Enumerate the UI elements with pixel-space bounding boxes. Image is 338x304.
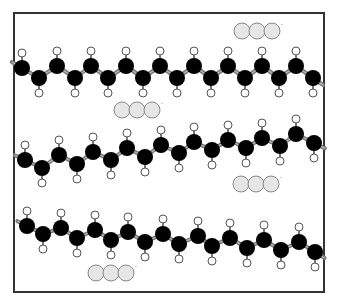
carbon-atom	[203, 70, 219, 86]
hydrogen-atom	[123, 129, 131, 137]
polymer-chains	[12, 47, 325, 271]
hydrogen-atom	[173, 89, 181, 97]
carbon-atom	[239, 240, 255, 256]
ion-ball	[103, 265, 119, 281]
hydrogen-atom	[122, 47, 130, 55]
hydrogen-atom	[208, 161, 216, 169]
carbon-atom	[238, 140, 254, 156]
ion-ball	[249, 23, 265, 39]
carbon-atom	[272, 138, 288, 154]
hydrogen-atom	[241, 89, 249, 97]
ion-group-4: -	[88, 263, 137, 281]
charge-label: -	[161, 100, 163, 106]
hydrogen-atom	[311, 263, 319, 271]
carbon-atom	[87, 222, 103, 238]
hydrogen-atom	[89, 133, 97, 141]
ion-ball	[264, 23, 280, 39]
carbon-atom	[17, 152, 33, 168]
carbon-atom	[31, 70, 47, 86]
carbon-atom	[135, 70, 151, 86]
carbon-atom	[273, 242, 289, 258]
carbon-atom	[171, 145, 187, 161]
hydrogen-atom	[73, 249, 81, 257]
hydrogen-atom	[141, 253, 149, 261]
carbon-atom	[67, 70, 83, 86]
carbon-atom	[307, 244, 323, 260]
carbon-atom	[35, 226, 51, 242]
ion-ball	[118, 265, 134, 281]
hydrogen-atom	[258, 47, 266, 55]
hydrogen-atom	[104, 89, 112, 97]
carbon-atom	[186, 134, 202, 150]
carbon-atom	[51, 147, 67, 163]
chain-3	[17, 207, 324, 271]
chain-1	[12, 47, 323, 97]
hydrogen-atom	[292, 47, 300, 55]
carbon-atom	[53, 220, 69, 236]
carbon-atom	[103, 152, 119, 168]
carbon-atom	[306, 135, 322, 151]
carbon-atom	[118, 58, 134, 74]
ion-group-2: -	[114, 100, 163, 118]
hydrogen-atom	[73, 175, 81, 183]
ion-ball	[144, 102, 160, 118]
hydrogen-atom	[295, 223, 303, 231]
ion-ball	[263, 176, 279, 192]
hydrogen-atom	[156, 47, 164, 55]
hydrogen-atom	[35, 89, 43, 97]
hydrogen-atom	[309, 89, 317, 97]
hydrogen-atom	[124, 213, 132, 221]
ion-ball	[234, 23, 250, 39]
carbon-atom	[103, 232, 119, 248]
hydrogen-atom	[243, 259, 251, 267]
hydrogen-atom	[91, 211, 99, 219]
hydrogen-atom	[224, 121, 232, 129]
carbon-atom	[288, 58, 304, 74]
carbon-atom	[171, 236, 187, 252]
ion-ball	[88, 265, 104, 281]
hydrogen-atom	[175, 255, 183, 263]
carbon-atom	[19, 218, 35, 234]
carbon-atom	[152, 58, 168, 74]
carbon-atom	[83, 58, 99, 74]
carbon-atom	[137, 149, 153, 165]
carbon-atom	[85, 144, 101, 160]
hydrogen-atom	[208, 257, 216, 265]
carbon-atom	[34, 160, 50, 176]
hydrogen-atom	[194, 217, 202, 225]
carbon-atom	[204, 142, 220, 158]
hydrogen-atom	[107, 251, 115, 259]
carbon-atom	[100, 70, 116, 86]
diagram-canvas: ----	[0, 0, 338, 304]
carbon-atom	[119, 140, 135, 156]
charge-label: -	[135, 263, 137, 269]
carbon-atom	[288, 126, 304, 142]
carbon-atom	[155, 226, 171, 242]
carbon-atom	[254, 130, 270, 146]
hydrogen-atom	[55, 136, 63, 144]
hydrogen-atom	[107, 171, 115, 179]
hydrogen-atom	[87, 47, 95, 55]
carbon-atom	[254, 58, 270, 74]
carbon-atom	[256, 232, 272, 248]
hydrogen-atom	[277, 261, 285, 269]
carbon-atom	[222, 230, 238, 246]
carbon-atom	[153, 137, 169, 153]
carbon-atom	[204, 238, 220, 254]
carbon-atom	[220, 58, 236, 74]
chain-2	[15, 115, 325, 187]
hydrogen-atom	[57, 209, 65, 217]
ion-ball	[129, 102, 145, 118]
hydrogen-atom	[275, 89, 283, 97]
carbon-atom	[186, 58, 202, 74]
hydrogen-atom	[71, 89, 79, 97]
hydrogen-atom	[242, 159, 250, 167]
hydrogen-atom	[39, 245, 47, 253]
carbon-atom	[291, 234, 307, 250]
hydrogen-atom	[38, 179, 46, 187]
carbon-atom	[69, 230, 85, 246]
hydrogen-atom	[190, 47, 198, 55]
polymer-chains-diagram: ----	[0, 0, 338, 304]
hydrogen-atom	[53, 47, 61, 55]
hydrogen-atom	[260, 221, 268, 229]
